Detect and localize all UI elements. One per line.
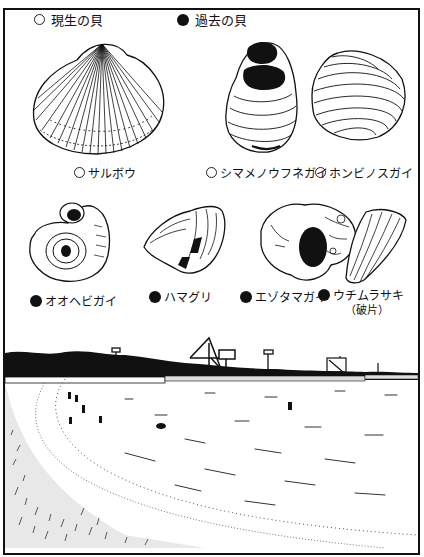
filled-circle-icon bbox=[318, 289, 330, 301]
filled-circle-icon bbox=[149, 291, 161, 303]
ezotamagai-name: エゾタマガイ bbox=[255, 288, 327, 305]
oohebigai-shell-icon bbox=[24, 195, 114, 285]
uchimurasaki-fragment-icon bbox=[342, 206, 412, 291]
label-oohebigai: オオヘビガイ bbox=[30, 292, 117, 309]
legend-past: 過去の貝 bbox=[177, 10, 247, 29]
label-saruboo: サルボウ bbox=[74, 164, 136, 181]
open-circle-icon bbox=[74, 167, 85, 178]
open-circle-icon bbox=[206, 167, 217, 178]
filled-circle-icon bbox=[177, 14, 189, 26]
people-on-beach bbox=[68, 392, 292, 429]
shimamenoufunegai-name: シマメノウフネガイ bbox=[220, 164, 328, 181]
filled-circle-icon bbox=[240, 291, 252, 303]
beach-landscape-illustration bbox=[5, 335, 418, 550]
open-circle-icon bbox=[315, 167, 326, 178]
saruboo-name: サルボウ bbox=[88, 164, 136, 181]
open-circle-icon bbox=[34, 14, 45, 25]
shimamenoufunegai-shell-icon bbox=[222, 38, 307, 158]
saruboo-shell-icon bbox=[22, 30, 172, 160]
legend-living-label: 現生の貝 bbox=[51, 10, 103, 29]
honbinosugai-name: ホンビノスガイ bbox=[329, 164, 413, 181]
legend-past-label: 過去の貝 bbox=[195, 10, 247, 29]
label-shimamenoufunegai: シマメノウフネガイ bbox=[206, 164, 328, 181]
hamaguri-shell-icon bbox=[140, 203, 230, 283]
legend-living: 現生の貝 bbox=[34, 10, 103, 29]
uchimurasaki-sublabel: （破片） bbox=[345, 301, 389, 317]
filled-circle-icon bbox=[30, 295, 42, 307]
label-ezotamagai: エゾタマガイ bbox=[240, 288, 327, 305]
honbinosugai-shell-icon bbox=[308, 45, 408, 145]
label-hamaguri: ハマグリ bbox=[149, 288, 212, 305]
label-honbinosugai: ホンビノスガイ bbox=[315, 164, 413, 181]
page-title-cutoff bbox=[60, 0, 360, 7]
hamaguri-name: ハマグリ bbox=[164, 288, 212, 305]
oohebigai-name: オオヘビガイ bbox=[45, 292, 117, 309]
